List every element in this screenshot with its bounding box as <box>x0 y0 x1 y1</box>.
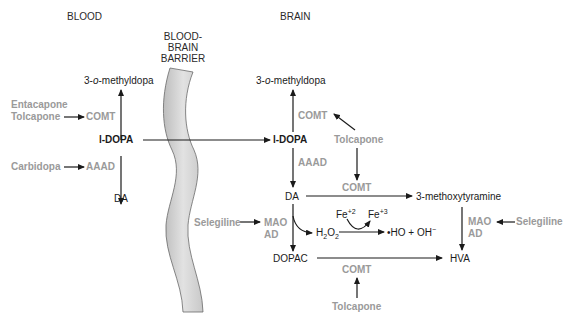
brain-3-methoxytyramine: 3-methoxytyramine <box>416 191 501 202</box>
brain-fe2: Fe+2 <box>336 209 356 220</box>
arrow-da-to-h2o2 <box>293 216 312 233</box>
barrier-line-2: BRAIN <box>158 42 208 53</box>
brain-selegiline-left: Selegiline <box>194 217 241 228</box>
barrier-line-1: BLOOD- <box>158 31 208 42</box>
brain-3-o-methyldopa: 3-o-methyldopa <box>256 75 326 86</box>
brain-dopac: DOPAC <box>273 253 308 264</box>
brain-aaad: AAAD <box>298 157 327 168</box>
levodopa-metabolism-diagram: BLOOD BRAIN BLOOD- BRAIN BARRIER 3-o-met… <box>0 0 571 318</box>
brain-hydroxyl-radical: •HO + OH− <box>387 227 436 238</box>
brain-hva: HVA <box>450 253 470 264</box>
brain-h2o2: H2O2 <box>316 227 339 238</box>
brain-mao-left: MAO <box>264 217 287 228</box>
brain-mao-right: MAO <box>468 216 491 227</box>
brain-selegiline-right: Selegiline <box>516 216 563 227</box>
header-barrier: BLOOD- BRAIN BARRIER <box>158 31 208 64</box>
brain-ad-left: AD <box>264 229 278 240</box>
blood-entacapone: Entacapone <box>11 99 68 110</box>
diagram-graphics <box>0 0 571 318</box>
brain-comt-mid: COMT <box>342 182 371 193</box>
barrier-line-3: BARRIER <box>158 53 208 64</box>
blood-l-dopa: l-DOPA <box>99 134 133 145</box>
brain-l-dopa: l-DOPA <box>273 134 307 145</box>
blood-brain-barrier-band <box>163 68 203 312</box>
blood-tolcapone: Tolcapone <box>11 111 60 122</box>
blood-carbidopa: Carbidopa <box>11 161 60 172</box>
brain-da: DA <box>285 191 299 202</box>
brain-tolcapone-bottom: Tolcapone <box>332 301 381 312</box>
brain-fe3: Fe+3 <box>368 209 388 220</box>
header-brain: BRAIN <box>280 11 311 22</box>
arrow-fe2-to-fe3 <box>347 219 370 229</box>
blood-aaad: AAAD <box>86 161 115 172</box>
blood-da: DA <box>114 193 128 204</box>
brain-comt-top: COMT <box>298 110 327 121</box>
arrow-tolcapone-to-comt-top <box>334 114 355 130</box>
blood-comt: COMT <box>86 111 115 122</box>
brain-comt-bottom: COMT <box>342 264 371 275</box>
blood-3-o-methyldopa: 3-o-methyldopa <box>84 75 154 86</box>
brain-tolcapone-top: Tolcapone <box>334 134 383 145</box>
header-blood: BLOOD <box>67 11 102 22</box>
brain-ad-right: AD <box>468 228 482 239</box>
